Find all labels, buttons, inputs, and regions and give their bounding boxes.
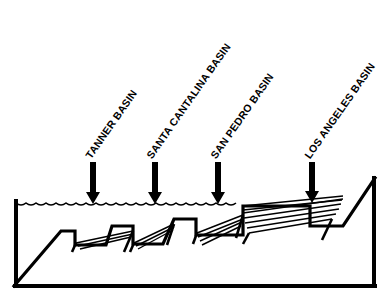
arrow-tanner [86,162,100,204]
arrow-los-angeles [305,162,319,203]
sea-surface-wavy-line [16,203,236,205]
fill-tanner-layer-2 [80,237,131,249]
arrow-santa-cantalina [148,162,162,204]
fill-tanner-layer-0 [76,231,133,243]
fill-los-angeles-fault-right [322,219,332,240]
fill-tanner-fault-left [72,243,76,252]
seafloor-profile-line [14,178,375,286]
continental-shelf-lines [243,196,343,210]
figure-canvas: TANNER BASIN SANTA CANTALINA BASIN SAN P… [0,0,386,300]
cross-section-svg [0,0,386,300]
fill-santa-cantalina-fault-left [130,243,134,252]
fill-san-pedro-layer-2 [200,222,242,241]
basin-pointer-arrows [86,162,319,204]
arrow-san-pedro [211,162,225,204]
